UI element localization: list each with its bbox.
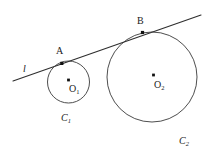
- label-circle-c1: C1: [61, 112, 71, 124]
- label-center-o2-base: O: [154, 79, 161, 90]
- label-point-b: B: [137, 15, 144, 26]
- label-center-o1-subscript: 1: [76, 88, 79, 95]
- circle-c1: [48, 61, 90, 103]
- center-o1-dot: [67, 79, 70, 82]
- label-circle-c1-subscript: 1: [68, 117, 71, 124]
- label-center-o1-base: O: [69, 83, 76, 94]
- label-point-a: A: [56, 45, 64, 56]
- circle-c2: [107, 32, 197, 122]
- label-center-o2-subscript: 2: [161, 84, 164, 91]
- label-line-l: l: [23, 63, 26, 74]
- label-center-o2: O2: [154, 79, 164, 91]
- tangent-point-a-dot: [60, 62, 63, 65]
- tangent-point-b-dot: [141, 31, 144, 34]
- label-center-o1: O1: [69, 83, 79, 95]
- label-circle-c2: C2: [179, 135, 190, 147]
- center-o2-dot: [152, 74, 155, 77]
- geometry-figure: l A B O1 O2 C1 C2: [0, 0, 218, 159]
- geometry-canvas: l A B O1 O2 C1 C2: [0, 0, 218, 159]
- label-circle-c2-subscript: 2: [186, 140, 190, 147]
